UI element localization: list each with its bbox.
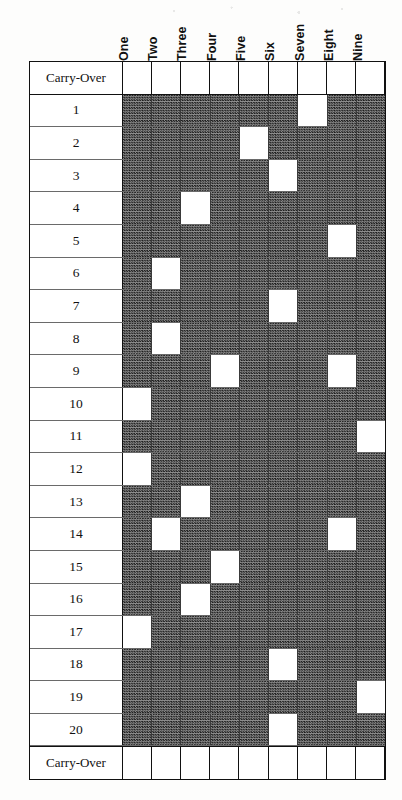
grid-cell-shaded[interactable] (298, 616, 327, 648)
grid-cell-shaded[interactable] (123, 518, 152, 550)
grid-cell-shaded[interactable] (328, 160, 357, 192)
grid-cell-shaded[interactable] (211, 714, 240, 746)
grid-cell-shaded[interactable] (211, 649, 240, 681)
grid-cell-shaded[interactable] (328, 486, 357, 518)
grid-cell-shaded[interactable] (240, 290, 269, 322)
grid-cell-shaded[interactable] (269, 388, 298, 420)
grid-cell-shaded[interactable] (181, 225, 210, 257)
grid-cell-open[interactable] (181, 62, 210, 94)
grid-cell-shaded[interactable] (152, 388, 181, 420)
grid-cell-shaded[interactable] (240, 421, 269, 453)
grid-cell-shaded[interactable] (152, 551, 181, 583)
grid-cell-shaded[interactable] (181, 551, 210, 583)
grid-cell-shaded[interactable] (328, 388, 357, 420)
grid-cell-shaded[interactable] (328, 290, 357, 322)
grid-cell-shaded[interactable] (123, 681, 152, 713)
grid-cell-shaded[interactable] (211, 388, 240, 420)
grid-cell-shaded[interactable] (328, 95, 357, 127)
grid-cell-shaded[interactable] (181, 518, 210, 550)
grid-cell-shaded[interactable] (240, 714, 269, 746)
grid-cell-shaded[interactable] (181, 127, 210, 159)
grid-cell-open[interactable] (152, 518, 181, 550)
grid-cell-shaded[interactable] (298, 486, 327, 518)
grid-cell-shaded[interactable] (240, 192, 269, 224)
grid-cell-open[interactable] (240, 127, 269, 159)
grid-cell-shaded[interactable] (298, 421, 327, 453)
grid-cell-open[interactable] (239, 62, 268, 94)
grid-cell-open[interactable] (269, 649, 298, 681)
grid-cell-shaded[interactable] (269, 127, 298, 159)
grid-cell-shaded[interactable] (298, 355, 327, 387)
grid-cell-shaded[interactable] (211, 421, 240, 453)
grid-cell-shaded[interactable] (269, 323, 298, 355)
grid-cell-shaded[interactable] (152, 95, 181, 127)
grid-cell-shaded[interactable] (298, 518, 327, 550)
grid-cell-shaded[interactable] (181, 95, 210, 127)
grid-cell-shaded[interactable] (357, 649, 385, 681)
grid-cell-shaded[interactable] (298, 714, 327, 746)
grid-cell-shaded[interactable] (211, 453, 240, 485)
grid-cell-shaded[interactable] (240, 95, 269, 127)
grid-cell-shaded[interactable] (357, 192, 385, 224)
grid-cell-shaded[interactable] (240, 486, 269, 518)
grid-cell-shaded[interactable] (357, 518, 385, 550)
grid-cell-open[interactable] (123, 388, 152, 420)
grid-cell-shaded[interactable] (269, 453, 298, 485)
grid-cell-shaded[interactable] (211, 127, 240, 159)
grid-cell-open[interactable] (357, 421, 385, 453)
grid-cell-shaded[interactable] (298, 225, 327, 257)
grid-cell-shaded[interactable] (298, 323, 327, 355)
grid-cell-shaded[interactable] (123, 290, 152, 322)
grid-cell-shaded[interactable] (357, 616, 385, 648)
grid-cell-shaded[interactable] (328, 681, 357, 713)
grid-cell-shaded[interactable] (298, 160, 327, 192)
grid-cell-open[interactable] (269, 290, 298, 322)
grid-cell-shaded[interactable] (211, 323, 240, 355)
grid-cell-shaded[interactable] (357, 160, 385, 192)
grid-cell-shaded[interactable] (181, 160, 210, 192)
grid-cell-open[interactable] (123, 62, 152, 94)
grid-cell-shaded[interactable] (240, 453, 269, 485)
grid-cell-shaded[interactable] (123, 323, 152, 355)
grid-cell-open[interactable] (327, 62, 356, 94)
grid-cell-shaded[interactable] (181, 681, 210, 713)
grid-cell-shaded[interactable] (123, 192, 152, 224)
grid-cell-open[interactable] (328, 225, 357, 257)
grid-cell-shaded[interactable] (269, 95, 298, 127)
grid-cell-open[interactable] (152, 258, 181, 290)
grid-cell-shaded[interactable] (298, 290, 327, 322)
grid-cell-shaded[interactable] (123, 355, 152, 387)
grid-cell-shaded[interactable] (123, 421, 152, 453)
grid-cell-shaded[interactable] (240, 518, 269, 550)
grid-cell-open[interactable] (152, 323, 181, 355)
grid-cell-shaded[interactable] (357, 584, 385, 616)
grid-cell-open[interactable] (211, 551, 240, 583)
grid-cell-open[interactable] (152, 747, 181, 779)
grid-cell-shaded[interactable] (269, 616, 298, 648)
grid-cell-shaded[interactable] (298, 551, 327, 583)
grid-cell-shaded[interactable] (211, 160, 240, 192)
grid-cell-shaded[interactable] (269, 486, 298, 518)
grid-cell-open[interactable] (298, 95, 327, 127)
grid-cell-shaded[interactable] (240, 355, 269, 387)
grid-cell-shaded[interactable] (152, 192, 181, 224)
grid-cell-shaded[interactable] (298, 649, 327, 681)
grid-cell-shaded[interactable] (328, 584, 357, 616)
grid-cell-shaded[interactable] (328, 323, 357, 355)
grid-cell-shaded[interactable] (152, 616, 181, 648)
grid-cell-shaded[interactable] (181, 453, 210, 485)
grid-cell-shaded[interactable] (328, 127, 357, 159)
grid-cell-shaded[interactable] (152, 355, 181, 387)
grid-cell-shaded[interactable] (123, 127, 152, 159)
grid-cell-shaded[interactable] (328, 192, 357, 224)
grid-cell-shaded[interactable] (211, 225, 240, 257)
grid-cell-shaded[interactable] (357, 95, 385, 127)
grid-cell-shaded[interactable] (269, 192, 298, 224)
grid-cell-shaded[interactable] (357, 258, 385, 290)
grid-cell-shaded[interactable] (240, 388, 269, 420)
grid-cell-shaded[interactable] (328, 421, 357, 453)
grid-cell-shaded[interactable] (181, 258, 210, 290)
grid-cell-shaded[interactable] (181, 616, 210, 648)
grid-cell-shaded[interactable] (328, 453, 357, 485)
grid-cell-open[interactable] (152, 62, 181, 94)
